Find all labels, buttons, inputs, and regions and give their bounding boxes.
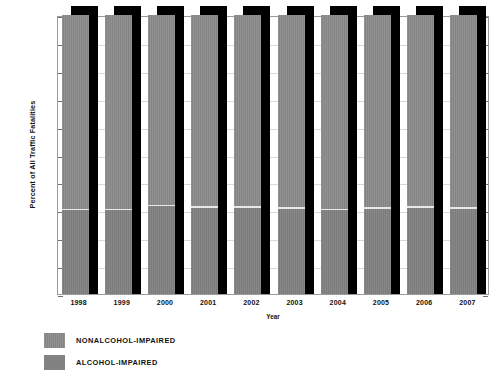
bar-segment-divider [364, 207, 391, 209]
bar-shadow [261, 6, 270, 294]
bar-segment-nonalcohol-impaired[interactable] [450, 15, 477, 209]
bar-shadow-cap [373, 6, 391, 15]
bar-shadow [218, 6, 227, 294]
bar-stack[interactable] [62, 15, 89, 294]
legend-item[interactable]: NONALCOHOL-IMPAIRED [44, 329, 176, 351]
bar-segment-alcohol-impaired[interactable] [321, 210, 348, 294]
bar-group [105, 17, 141, 294]
bar-segment-alcohol-impaired[interactable] [148, 206, 175, 294]
bar-segment-alcohol-impaired[interactable] [105, 210, 132, 294]
bar-segment-alcohol-impaired[interactable] [234, 208, 261, 294]
bar-segment-divider [62, 209, 89, 211]
bar-segment-nonalcohol-impaired[interactable] [407, 15, 434, 208]
bar-shadow-cap [330, 6, 348, 15]
y-axis-title: Percent of All Traffic Fatalities [28, 45, 37, 265]
x-axis-tick-label: 1999 [99, 299, 145, 306]
bar-shadow [89, 6, 98, 294]
bar-segment-alcohol-impaired[interactable] [450, 209, 477, 294]
bar-segment-alcohol-impaired[interactable] [278, 209, 305, 294]
bar-segment-alcohol-impaired[interactable] [191, 208, 218, 294]
bar-group [148, 17, 184, 294]
axis-tick [58, 296, 63, 297]
bars-layer [58, 17, 488, 294]
bar-group [234, 17, 270, 294]
x-axis-tick-label: 2001 [185, 299, 231, 306]
bar-segment-nonalcohol-impaired[interactable] [364, 15, 391, 209]
bar-segment-divider [234, 206, 261, 208]
legend-swatch-nonalcohol [44, 333, 65, 348]
bar-stack[interactable] [191, 15, 218, 294]
bar-segment-nonalcohol-impaired[interactable] [105, 15, 132, 210]
bar-group [62, 17, 98, 294]
legend-label: ALCOHOL-IMPAIRED [76, 358, 158, 367]
bar-group [321, 17, 357, 294]
bar-segment-divider [321, 209, 348, 211]
chart-container: Percent of All Traffic Fatalities 0%10%2… [0, 0, 503, 379]
x-axis-tick-label: 2004 [315, 299, 361, 306]
bar-shadow [477, 6, 486, 294]
axis-tick [483, 296, 488, 297]
bar-shadow [305, 6, 314, 294]
x-axis-tick-label: 2005 [358, 299, 404, 306]
bar-segment-nonalcohol-impaired[interactable] [234, 15, 261, 208]
bar-segment-nonalcohol-impaired[interactable] [191, 15, 218, 208]
bar-shadow [434, 6, 443, 294]
bar-stack[interactable] [407, 15, 434, 294]
plot-area [57, 16, 489, 295]
bar-group [450, 17, 486, 294]
legend-label: NONALCOHOL-IMPAIRED [76, 336, 176, 345]
bar-group [191, 17, 227, 294]
bar-stack[interactable] [105, 15, 132, 294]
bar-stack[interactable] [321, 15, 348, 294]
x-axis-tick-label: 2003 [272, 299, 318, 306]
x-axis-tick-label: 2000 [142, 299, 188, 306]
chart-legend: NONALCOHOL-IMPAIREDALCOHOL-IMPAIRED [44, 329, 176, 373]
bar-shadow-cap [200, 6, 218, 15]
x-axis-tick-label: 1998 [56, 299, 102, 306]
x-axis-tick-label: 2006 [401, 299, 447, 306]
bar-stack[interactable] [148, 15, 175, 294]
bar-segment-divider [407, 206, 434, 208]
bar-segment-alcohol-impaired[interactable] [364, 209, 391, 294]
bar-segment-alcohol-impaired[interactable] [407, 208, 434, 294]
bar-group [407, 17, 443, 294]
bar-stack[interactable] [278, 15, 305, 294]
bar-stack[interactable] [364, 15, 391, 294]
bar-group [364, 17, 400, 294]
bar-segment-divider [450, 207, 477, 209]
bar-group [278, 17, 314, 294]
bar-shadow [391, 6, 400, 294]
bar-shadow-cap [459, 6, 477, 15]
bar-shadow [348, 6, 357, 294]
bar-segment-alcohol-impaired[interactable] [62, 210, 89, 294]
x-axis-title: Year [57, 313, 489, 320]
bar-shadow-cap [71, 6, 89, 15]
bar-segment-divider [105, 209, 132, 211]
bar-segment-nonalcohol-impaired[interactable] [148, 15, 175, 206]
bar-stack[interactable] [234, 15, 261, 294]
bar-stack[interactable] [450, 15, 477, 294]
bar-shadow-cap [416, 6, 434, 15]
bar-segment-divider [278, 207, 305, 209]
bar-segment-nonalcohol-impaired[interactable] [62, 15, 89, 210]
bar-segment-nonalcohol-impaired[interactable] [278, 15, 305, 209]
x-axis-tick-label: 2007 [444, 299, 490, 306]
bar-segment-divider [148, 205, 175, 207]
bar-shadow-cap [287, 6, 305, 15]
legend-swatch-alcohol [44, 355, 65, 370]
bar-shadow [132, 6, 141, 294]
bar-segment-divider [191, 206, 218, 208]
x-axis-tick-label: 2002 [228, 299, 274, 306]
bar-shadow-cap [243, 6, 261, 15]
bar-shadow-cap [114, 6, 132, 15]
legend-item[interactable]: ALCOHOL-IMPAIRED [44, 351, 176, 373]
bar-shadow-cap [157, 6, 175, 15]
bar-segment-nonalcohol-impaired[interactable] [321, 15, 348, 210]
bar-shadow [175, 6, 184, 294]
